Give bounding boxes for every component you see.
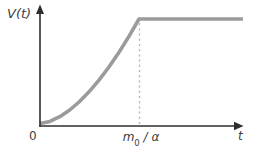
- x-axis-label: t: [238, 130, 243, 142]
- y-axis-arrowhead-icon: [36, 5, 44, 15]
- x-tick-rest: / α: [140, 130, 160, 144]
- origin-label: 0: [29, 130, 37, 142]
- x-tick-base: m: [123, 130, 135, 144]
- y-axis-label: V(t): [7, 7, 31, 20]
- velocity-curve: [40, 19, 243, 124]
- x-tick-label: m0 / α: [123, 131, 160, 146]
- velocity-time-figure: V(t) 0 m0 / α t: [0, 0, 263, 155]
- x-tick-subscript: 0: [134, 138, 139, 148]
